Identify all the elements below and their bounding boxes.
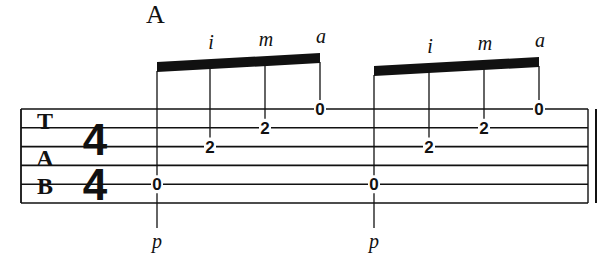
- clef-letter-b: B: [37, 173, 53, 199]
- finger-label-p: p: [367, 230, 379, 253]
- finger-label-m: m: [478, 32, 492, 54]
- finger-label-m: m: [259, 28, 273, 50]
- note-group-1: 0p2i2m0a: [150, 25, 326, 253]
- note-groups: 0p2i2m0a0p2i2m0a: [150, 25, 545, 253]
- clef-letter-t: T: [37, 108, 53, 134]
- fret-number: 2: [205, 138, 214, 157]
- beam: [374, 57, 539, 76]
- fret-number: 2: [424, 138, 433, 157]
- finger-label-a: a: [535, 29, 545, 51]
- fret-number: 0: [315, 100, 324, 119]
- finger-label-i: i: [208, 31, 214, 53]
- note-group-2: 0p2i2m0a: [367, 29, 545, 253]
- clef-letter-a: A: [36, 145, 54, 171]
- barlines: [21, 109, 596, 203]
- finger-label-a: a: [316, 25, 326, 47]
- time-signature-bottom: 4: [83, 160, 108, 209]
- finger-label-i: i: [427, 35, 433, 57]
- time-signature: 44: [83, 115, 108, 209]
- tab-clef: TAB: [36, 108, 54, 199]
- fret-number: 0: [152, 175, 161, 194]
- tablature-staff: TAB 44 0p2i2m0a0p2i2m0a: [0, 0, 601, 271]
- fret-number: 0: [534, 100, 543, 119]
- beam: [157, 53, 320, 72]
- fret-number: 0: [369, 175, 378, 194]
- finger-label-p: p: [150, 230, 162, 253]
- time-signature-top: 4: [83, 115, 108, 164]
- fret-number: 2: [479, 119, 488, 138]
- fret-number: 2: [260, 119, 269, 138]
